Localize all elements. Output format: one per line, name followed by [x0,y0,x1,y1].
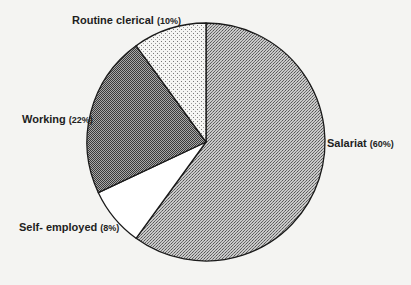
label-routine-name: Routine clerical [72,14,154,26]
label-self-employed: Self- employed (8%) [19,221,119,234]
label-salariat-pct: (60%) [370,139,394,149]
label-working: Working (22%) [22,113,93,126]
label-salariat-name: Salariat [327,137,367,149]
label-salariat: Salariat (60%) [327,137,394,150]
label-working-name: Working [22,113,66,125]
label-self-employed-pct: (8%) [100,223,119,233]
label-working-pct: (22%) [69,115,93,125]
label-self-employed-name: Self- employed [19,221,97,233]
pie-slices [87,23,325,261]
label-routine-pct: (10%) [157,16,181,26]
label-routine-clerical: Routine clerical (10%) [72,14,181,27]
